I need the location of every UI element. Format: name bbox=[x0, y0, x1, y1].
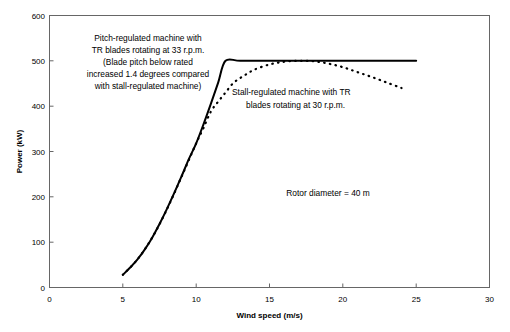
pitch-annotation-line-4: increased 1.4 degrees compared bbox=[87, 69, 210, 79]
y-tick-label-600: 600 bbox=[32, 12, 46, 21]
x-axis-ticks bbox=[50, 284, 490, 288]
rotor-diameter-annotation: Rotor diameter = 40 m bbox=[286, 188, 370, 198]
y-tick-label-0: 0 bbox=[41, 284, 46, 293]
x-tick-label-25: 25 bbox=[412, 295, 421, 304]
x-tick-label-30: 30 bbox=[485, 295, 494, 304]
power-curve-chart: 600 500 400 300 200 100 0 0 5 10 15 20 2… bbox=[0, 0, 510, 332]
y-axis-ticks bbox=[50, 16, 54, 288]
x-tick-label-5: 5 bbox=[121, 295, 126, 304]
y-tick-label-200: 200 bbox=[32, 193, 46, 202]
y-tick-label-100: 100 bbox=[32, 238, 46, 247]
stall-regulated-annotation: Stall-regulated machine with TR blades r… bbox=[232, 87, 351, 110]
y-tick-label-300: 300 bbox=[32, 148, 46, 157]
pitch-annotation-line-3: (Blade pitch below rated bbox=[103, 57, 193, 67]
pitch-annotation-line-2: TR blades rotating at 33 r.p.m. bbox=[92, 45, 205, 55]
pitch-regulated-annotation: Pitch-regulated machine with TR blades r… bbox=[87, 33, 210, 91]
x-tick-label-10: 10 bbox=[192, 295, 201, 304]
chart-figure: 600 500 400 300 200 100 0 0 5 10 15 20 2… bbox=[0, 0, 510, 332]
stall-annotation-line-1: Stall-regulated machine with TR bbox=[232, 87, 351, 97]
pitch-annotation-line-1: Pitch-regulated machine with bbox=[94, 33, 202, 43]
stall-annotation-line-2: blades rotating at 30 r.p.m. bbox=[246, 100, 345, 110]
x-axis-title: Wind speed (m/s) bbox=[236, 311, 302, 320]
x-tick-label-20: 20 bbox=[338, 295, 347, 304]
pitch-annotation-line-5: with stall-regulated machine) bbox=[94, 81, 202, 91]
y-tick-label-400: 400 bbox=[32, 102, 46, 111]
y-axis-title: Power (kW) bbox=[15, 129, 24, 173]
x-tick-label-0: 0 bbox=[47, 295, 52, 304]
y-tick-label-500: 500 bbox=[32, 57, 46, 66]
x-tick-label-15: 15 bbox=[265, 295, 274, 304]
